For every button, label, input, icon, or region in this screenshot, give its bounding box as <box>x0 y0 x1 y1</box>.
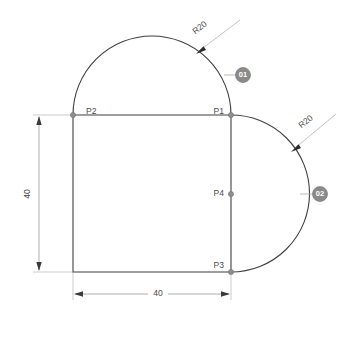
radius-right-label: R20 <box>296 113 315 131</box>
horizontal-dimension-label: 40 <box>153 288 163 298</box>
point-node-p3[interactable] <box>228 269 233 274</box>
top-arc-r20 <box>73 36 231 115</box>
point-node-p4[interactable] <box>228 191 233 196</box>
point-label-p4: P4 <box>214 188 225 198</box>
right-arc-r20 <box>231 115 310 272</box>
point-node-p2[interactable] <box>70 112 75 117</box>
radius-top-label: R20 <box>190 19 209 37</box>
vertical-dimension-label: 40 <box>22 189 32 199</box>
point-label-p3: P3 <box>214 260 225 270</box>
point-label-p2: P2 <box>86 106 97 116</box>
vertical-dim-arrow-bottom <box>36 262 41 271</box>
horizontal-dim-arrow-right <box>221 291 230 296</box>
vertical-dim-arrow-top <box>36 116 41 125</box>
callout-02-label: 02 <box>316 189 324 198</box>
point-label-p1: P1 <box>214 106 225 116</box>
horizontal-dim-arrow-left <box>74 291 83 296</box>
callout-01-label: 01 <box>239 70 247 79</box>
technical-drawing: 40 40 R20 R20 01 02 P2 <box>0 0 343 344</box>
cad-drawing-canvas: 40 40 R20 R20 01 02 P2 <box>0 0 343 344</box>
point-node-p1[interactable] <box>228 112 233 117</box>
